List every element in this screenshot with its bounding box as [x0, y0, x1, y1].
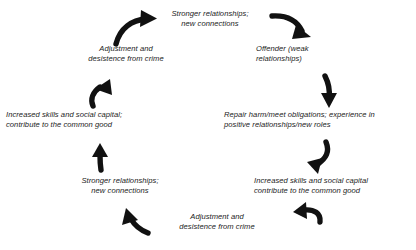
cycle-diagram: Stronger relationships; new connections …	[0, 0, 416, 250]
node-label-stronger-relationships-left: Stronger relationships; new connections	[56, 176, 184, 196]
arrow-left-upper-icon	[92, 79, 112, 106]
node-label-offender: Offender (weak relationships)	[256, 44, 360, 64]
arrow-left-lower-icon	[92, 143, 108, 170]
node-label-adjustment-left: Adjustment and desistence from crime	[62, 44, 190, 64]
arrow-bottom-right-icon	[293, 202, 320, 222]
arrow-right-lower-icon	[307, 142, 328, 174]
node-label-repair-harm: Repair harm/meet obligations; experience…	[224, 110, 412, 130]
node-label-adjustment-bottom: Adjustment and desistence from crime	[158, 212, 276, 232]
arrow-top-right-icon	[272, 16, 311, 39]
node-label-increased-skills-left: Increased skills and social capital; con…	[6, 110, 166, 130]
node-label-stronger-relationships-top: Stronger relationships; new connections	[148, 9, 272, 29]
arrow-right-upper-icon	[321, 76, 337, 108]
node-label-increased-skills-right: Increased skills and social capital cont…	[254, 176, 412, 196]
arrow-bottom-left-icon	[122, 208, 148, 233]
